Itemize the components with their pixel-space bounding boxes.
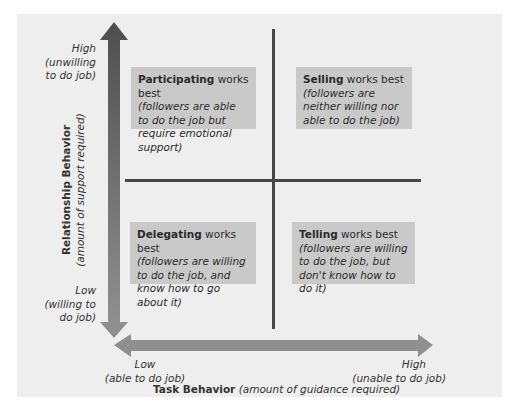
y-axis-title-text: Relationship Behavior xyxy=(60,125,72,255)
quadrant-participating: Participating works best (followers are … xyxy=(131,67,256,129)
y-axis-subtitle: (amount of support required) xyxy=(74,60,87,320)
x-low-text: Low xyxy=(100,358,190,372)
quadrant-suffix: works best xyxy=(343,73,403,85)
x-axis-subtitle-text: (amount of guidance required) xyxy=(239,383,401,395)
quadrant-desc: (followers are neither willing nor able … xyxy=(303,87,405,128)
quadrant-desc: (followers are willing to do the job, bu… xyxy=(299,242,408,296)
horizontal-divider xyxy=(125,179,421,182)
vertical-arrow-icon xyxy=(100,22,128,338)
quadrant-suffix: works best xyxy=(338,228,398,240)
quadrant-telling: Telling works best (followers are willin… xyxy=(292,222,415,284)
quadrant-selling: Selling works best (followers are neithe… xyxy=(296,67,412,129)
quadrant-desc: (followers are able to do the job but re… xyxy=(138,100,249,154)
y-axis-subtitle-text: (amount of support required) xyxy=(74,113,86,267)
x-low-label: Low (able to do job) xyxy=(100,358,190,385)
horizontal-arrow-icon xyxy=(114,334,433,357)
quadrant-desc: (followers are willing to do the job, an… xyxy=(137,255,249,309)
quadrant-title: Participating xyxy=(138,73,214,85)
quadrant-title: Selling xyxy=(303,73,343,85)
x-axis-title-text: Task Behavior xyxy=(153,383,235,395)
quadrant-title: Telling xyxy=(299,228,338,240)
y-high-text: High xyxy=(30,42,96,56)
y-axis-title: Relationship Behavior xyxy=(60,60,73,320)
x-axis-title: Task Behavior (amount of guidance requir… xyxy=(153,383,400,395)
quadrant-title: Delegating xyxy=(137,228,202,240)
quadrant-delegating: Delegating works best (followers are wil… xyxy=(130,222,256,284)
x-high-text: High xyxy=(340,358,446,372)
x-high-label: High (unable to do job) xyxy=(340,358,446,385)
